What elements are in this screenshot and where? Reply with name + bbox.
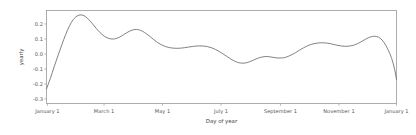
y-tick-label: -0.3	[33, 96, 43, 102]
x-tick-label: September 1	[264, 108, 297, 115]
yearly-seasonality-line-chart: 0.20.10.0-0.1-0.2-0.3January 1March 1May…	[0, 0, 416, 135]
x-tick-label: March 1	[94, 108, 114, 114]
y-axis-title: yearly	[18, 48, 25, 66]
y-tick-label: 0.1	[35, 36, 43, 42]
plot-background	[0, 0, 416, 135]
y-tick-label: 0.0	[35, 51, 43, 57]
x-tick-label: July 1	[213, 108, 228, 115]
x-axis-title: Day of year	[206, 118, 238, 125]
x-tick-label: January 1	[383, 108, 408, 115]
y-tick-label: -0.1	[33, 66, 43, 72]
y-tick-label: 0.2	[35, 21, 43, 27]
y-tick-label: -0.2	[33, 81, 43, 87]
x-tick-label: January 1	[34, 108, 59, 115]
x-tick-label: May 1	[155, 108, 170, 115]
x-tick-label: November 1	[323, 108, 354, 114]
chart-figure: 0.20.10.0-0.1-0.2-0.3January 1March 1May…	[0, 0, 416, 135]
